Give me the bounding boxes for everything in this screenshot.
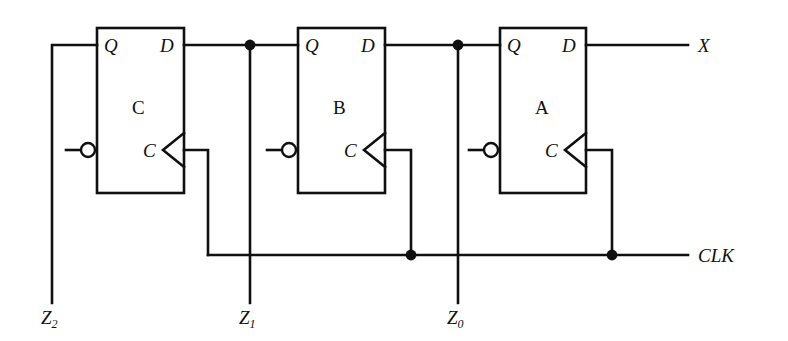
ff-a-clock-triangle [565, 133, 586, 167]
wire-ffb-clock-to-bus [385, 150, 411, 255]
junction-dot-z1-data [245, 40, 256, 51]
output-z1-letter: Z [239, 307, 250, 328]
clock-input-label: CLK [698, 246, 734, 265]
output-z0-label: Z0 [447, 308, 464, 330]
wire-ffa-clock-to-bus [586, 150, 612, 255]
output-z1-subscript: 1 [250, 317, 256, 331]
output-z0-subscript: 0 [458, 317, 464, 331]
ff-a-name-label: A [535, 98, 549, 117]
junction-dot-ffb-clk [406, 250, 417, 261]
ff-c-clock-label: C [143, 141, 156, 160]
junction-dot-z0-data [453, 40, 464, 51]
ff-a-q-label: Q [507, 36, 521, 55]
junction-dot-ffa-clk [607, 250, 618, 261]
ff-c-name-label: C [132, 98, 145, 117]
output-z1-label: Z1 [239, 308, 256, 330]
output-z2-label: Z2 [41, 308, 58, 330]
ff-a-clock-label: C [545, 141, 558, 160]
wire-ffc-q-to-z2 [52, 45, 97, 303]
ff-b-q-label: Q [305, 36, 319, 55]
ff-c-invert-bubble [81, 143, 95, 157]
ff-a-invert-bubble [484, 143, 498, 157]
wire-layer [0, 0, 788, 341]
circuit-diagram: Q D C C Q D B C Q D A C X CLK Z2 Z1 Z0 [0, 0, 788, 341]
ff-c-clock-triangle [163, 133, 184, 167]
ff-b-clock-triangle [364, 133, 385, 167]
ff-b-name-label: B [333, 98, 346, 117]
ff-b-invert-bubble [282, 143, 296, 157]
ff-b-d-label: D [361, 36, 375, 55]
output-z2-letter: Z [41, 307, 52, 328]
ff-b-clock-label: C [344, 141, 357, 160]
output-z0-letter: Z [447, 307, 458, 328]
wire-ffc-clock-to-bus [184, 150, 208, 255]
ff-c-q-label: Q [104, 36, 118, 55]
output-x-label: X [698, 36, 710, 55]
ff-a-d-label: D [562, 36, 576, 55]
ff-c-d-label: D [160, 36, 174, 55]
output-z2-subscript: 2 [52, 317, 58, 331]
